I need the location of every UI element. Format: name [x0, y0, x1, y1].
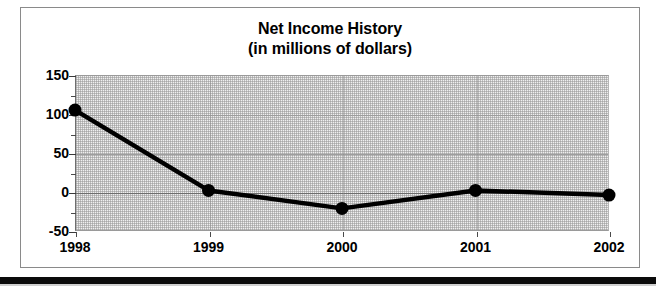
x-axis-tick-label: 1998 — [59, 239, 90, 255]
y-axis-tick-label: 0 — [61, 184, 69, 200]
x-axis-tick-label: 2002 — [593, 239, 624, 255]
x-axis-tick-label: 2001 — [460, 239, 491, 255]
y-axis-major-tick — [69, 232, 76, 233]
x-axis-tick — [76, 232, 77, 237]
y-axis-major-tick — [69, 154, 76, 155]
page-bottom-rule-shadow — [0, 284, 656, 286]
chart-frame: Net Income History (in millions of dolla… — [20, 7, 640, 268]
x-axis-tick — [610, 232, 611, 237]
category-separator — [477, 76, 478, 230]
x-axis-tick — [210, 232, 211, 237]
x-axis-tick — [343, 232, 344, 237]
chart-title-block: Net Income History (in millions of dolla… — [21, 19, 639, 58]
gridline — [76, 193, 608, 194]
y-axis-major-tick — [69, 193, 76, 194]
gridline — [76, 154, 608, 155]
x-axis-labels: 19981999200020012002 — [75, 239, 609, 261]
category-separator — [343, 76, 344, 230]
x-axis-tick — [477, 232, 478, 237]
y-axis-minor-tick — [71, 213, 76, 214]
gridline — [76, 115, 608, 116]
y-axis-labels: 150100500-50 — [21, 75, 69, 231]
chart-subtitle: (in millions of dollars) — [21, 39, 639, 59]
page-bottom-rule — [0, 277, 656, 284]
y-axis-major-tick — [69, 76, 76, 77]
y-axis-major-tick — [69, 115, 76, 116]
y-axis-tick-label: -50 — [49, 223, 69, 239]
y-axis-minor-tick — [71, 174, 76, 175]
chart-title: Net Income History — [21, 19, 639, 39]
x-axis-tick-label: 1999 — [193, 239, 224, 255]
y-axis-minor-tick — [71, 96, 76, 97]
y-axis-minor-tick — [71, 135, 76, 136]
category-separator — [210, 76, 211, 230]
y-axis-tick-label: 100 — [46, 106, 69, 122]
plot-area — [75, 75, 609, 231]
x-axis-tick-label: 2000 — [326, 239, 357, 255]
y-axis-tick-label: 50 — [53, 145, 69, 161]
y-axis-tick-label: 150 — [46, 67, 69, 83]
